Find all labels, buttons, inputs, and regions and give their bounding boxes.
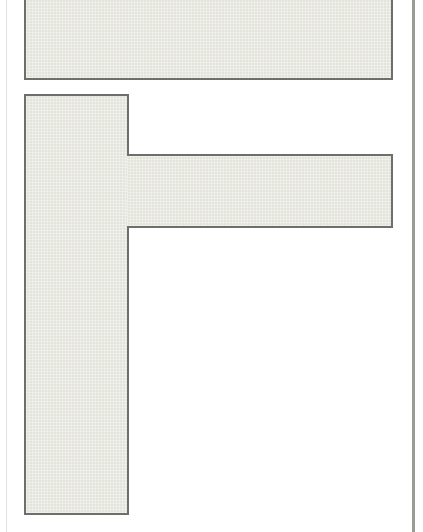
right-frame-line <box>412 0 415 532</box>
letter-f-stem <box>24 94 129 515</box>
letter-f-middle-arm <box>127 154 393 228</box>
left-frame-line <box>6 0 7 532</box>
letter-f-top-bar <box>24 0 393 80</box>
